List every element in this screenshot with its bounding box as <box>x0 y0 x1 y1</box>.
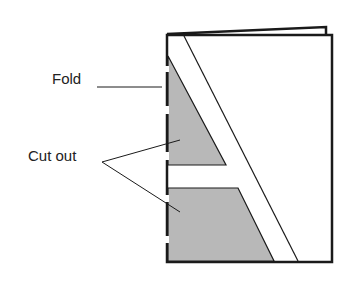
cut-out-label: Cut out <box>28 147 76 164</box>
fold-label: Fold <box>52 70 81 87</box>
folded-card-diagram <box>0 0 354 289</box>
